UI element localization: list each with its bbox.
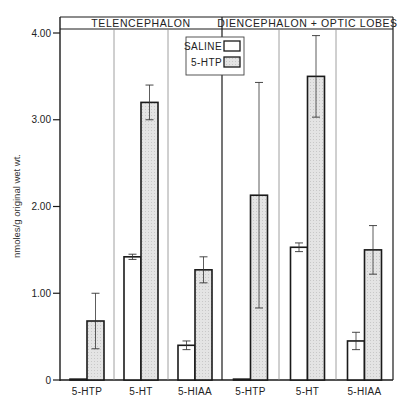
bar-saline (178, 345, 195, 380)
y-tick-label: 0 (45, 375, 51, 386)
bar-group-5-ht: 5-HT (291, 36, 325, 397)
x-category-label: 5-HT (296, 386, 319, 397)
bar-group-5-htp: 5-HTP (234, 82, 268, 397)
y-tick-label: 4.00 (32, 28, 52, 39)
bar-group-5-ht: 5-HT (124, 85, 158, 397)
bar-chart: 01.002.003.004.00 TELENCEPHALON5-HTP5-HT… (0, 0, 400, 406)
x-category-label: 5-HIAA (178, 386, 212, 397)
bar-group-5-hiaa: 5-HIAA (347, 226, 381, 397)
x-category-label: 5-HIAA (347, 386, 381, 397)
bar-saline (291, 247, 308, 380)
y-tick-label: 2.00 (32, 201, 52, 212)
bar-5htp (141, 102, 158, 380)
bar-5htp (308, 76, 325, 380)
bar-saline (124, 257, 141, 380)
bar-5htp (195, 270, 212, 380)
bar-saline (234, 379, 251, 380)
x-category-label: 5-HTP (72, 386, 102, 397)
x-category-label: 5-HT (129, 386, 152, 397)
legend-swatch-saline (224, 41, 240, 51)
panel-title: DIENCEPHALON + OPTIC LOBES (217, 17, 397, 29)
legend-label: SALINE (184, 41, 222, 52)
panel-title: TELENCEPHALON (91, 17, 190, 29)
bar-group-5-htp: 5-HTP (70, 293, 104, 397)
y-tick-label: 1.00 (32, 288, 52, 299)
x-category-label: 5-HTP (235, 386, 265, 397)
y-axis-label: nmoles/g original wet wt. (11, 154, 22, 258)
legend-label: 5-HTP (191, 57, 222, 68)
legend: SALINE5-HTP (184, 37, 244, 75)
legend-swatch-5htp (224, 57, 240, 67)
y-tick-label: 3.00 (32, 114, 52, 125)
bar-saline (70, 379, 87, 380)
bar-group-5-hiaa: 5-HIAA (178, 257, 212, 397)
